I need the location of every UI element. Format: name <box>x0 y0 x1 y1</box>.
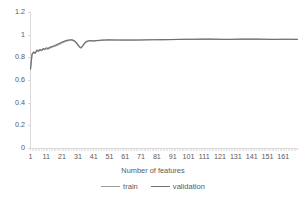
chart-legend: train validation <box>0 182 306 191</box>
series-line-train <box>31 39 298 69</box>
y-axis-tick-label: 0.4 <box>0 99 25 107</box>
axis-layer <box>28 13 298 152</box>
y-axis-tick-label: 0.2 <box>0 121 25 129</box>
legend-label-train: train <box>123 182 138 191</box>
legend-entry-train: train <box>101 182 138 191</box>
x-axis-tick-label: 161 <box>272 153 294 161</box>
y-axis-tick-label: 0.8 <box>0 53 25 61</box>
x-axis-title: Number of features <box>0 166 306 175</box>
legend-line-swatch-validation <box>151 186 170 187</box>
y-axis-tick-label: 0.6 <box>0 76 25 84</box>
series-line-validation <box>31 39 298 69</box>
legend-label-validation: validation <box>173 182 205 191</box>
series-layer <box>31 39 298 69</box>
legend-entry-validation: validation <box>151 182 205 191</box>
legend-line-swatch-train <box>101 186 120 187</box>
line-chart: 00.20.40.60.811.2 1112131415161718191101… <box>0 0 306 197</box>
y-axis-tick-label: 1.2 <box>0 8 25 16</box>
y-axis-tick-label: 0 <box>0 144 25 152</box>
y-axis-tick-label: 1 <box>0 31 25 39</box>
